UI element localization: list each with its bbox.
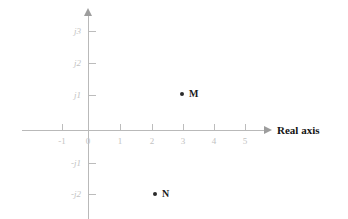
x-tick-label-4: 4 (203, 136, 225, 146)
y-tick-mark (89, 194, 96, 195)
real-axis-line (22, 130, 266, 131)
x-tick-label-1: 1 (109, 136, 131, 146)
y-tick-mark (89, 163, 96, 164)
x-tick-mark (152, 124, 153, 130)
x-tick-label-2: 2 (141, 136, 163, 146)
x-tick-label-3: 3 (172, 136, 194, 146)
data-point-label-m: M (189, 89, 198, 99)
y-tick-label-neg-j1: -j1 (55, 158, 81, 168)
y-tick-mark (89, 95, 96, 96)
x-tick-mark (120, 124, 121, 130)
imaginary-axis-line (88, 12, 89, 219)
real-axis-arrow-icon (264, 126, 272, 134)
y-tick-label-j3: j3 (55, 26, 81, 36)
y-tick-mark (89, 31, 96, 32)
real-axis-title: Real axis (277, 124, 319, 136)
x-tick-label-neg1: -1 (51, 136, 73, 146)
data-point-label-n: N (162, 189, 169, 199)
y-tick-label-j2: j2 (55, 58, 81, 68)
data-point-m (180, 92, 184, 96)
x-tick-label-5: 5 (234, 136, 256, 146)
imaginary-axis-arrow-icon (84, 8, 92, 16)
x-tick-mark (62, 124, 63, 130)
y-tick-label-j1: j1 (55, 90, 81, 100)
y-tick-mark (89, 63, 96, 64)
x-tick-mark (245, 124, 246, 130)
x-tick-mark (183, 124, 184, 130)
data-point-n (153, 192, 157, 196)
x-tick-mark (214, 124, 215, 130)
argand-diagram-figure: -1 0 1 2 3 4 5 j3 j2 j1 -j1 -j2 M N Real… (0, 0, 348, 219)
y-tick-label-neg-j2: -j2 (55, 189, 81, 199)
x-tick-label-0: 0 (77, 136, 99, 146)
